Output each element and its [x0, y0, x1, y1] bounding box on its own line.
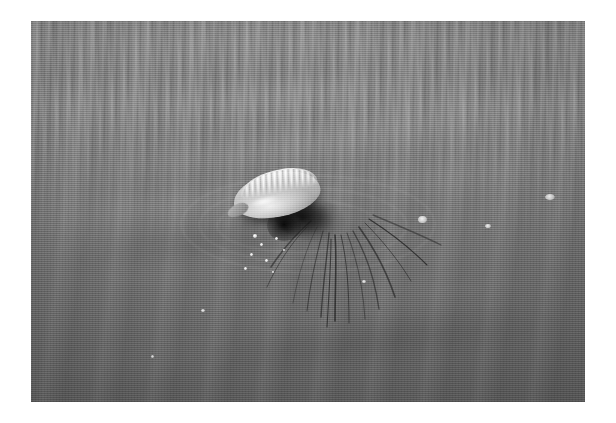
image-canvas: Portuguese man o' war floating at the oc… — [0, 0, 616, 423]
vignette — [31, 21, 585, 402]
photograph — [31, 21, 585, 402]
